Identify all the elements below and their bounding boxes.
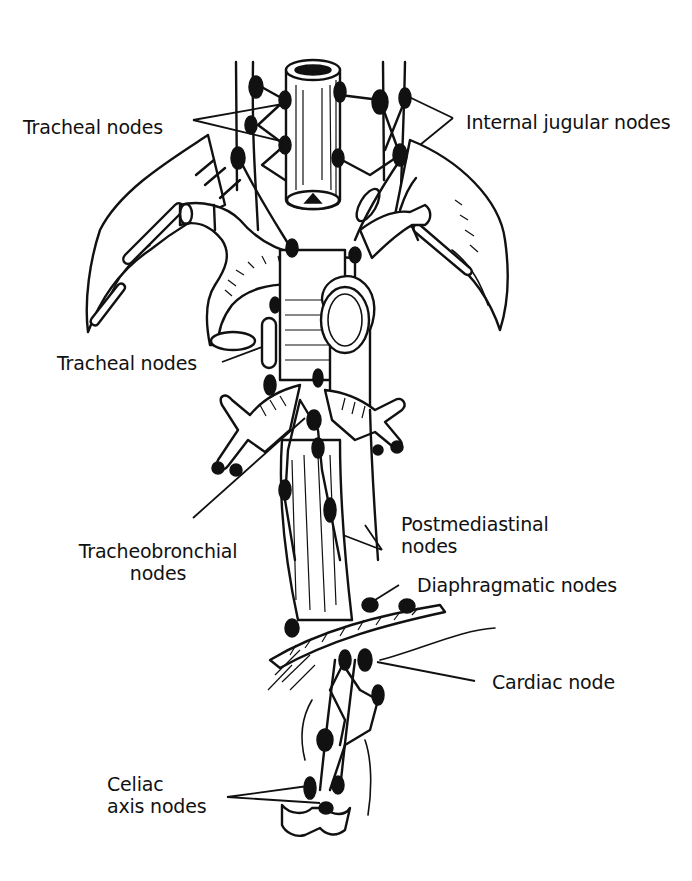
label-tracheobronchial-nodes: Tracheobronchial nodes bbox=[73, 540, 243, 584]
label-diaphragmatic-nodes: Diaphragmatic nodes bbox=[417, 574, 617, 596]
label-cardiac-node: Cardiac node bbox=[492, 671, 615, 693]
label-text: Tracheal nodes bbox=[23, 116, 163, 138]
right-subclavian-wing bbox=[395, 140, 508, 330]
label-text-line-1: Celiac bbox=[107, 773, 206, 795]
trachea bbox=[286, 60, 340, 209]
label-internal-jugular-nodes: Internal jugular nodes bbox=[466, 111, 670, 133]
label-tracheal-nodes-upper: Tracheal nodes bbox=[23, 116, 163, 138]
label-text-line-2: nodes bbox=[401, 535, 549, 557]
left-subclavian-wing bbox=[87, 135, 225, 332]
label-text-line-2: axis nodes bbox=[107, 795, 206, 817]
label-text-line-1: Postmediastinal bbox=[401, 513, 549, 535]
label-text: Tracheal nodes bbox=[57, 352, 197, 374]
label-text: Diaphragmatic nodes bbox=[417, 574, 617, 596]
anatomy-figure: Tracheal nodes Internal jugular nodes Tr… bbox=[0, 0, 692, 881]
label-tracheal-nodes-lower: Tracheal nodes bbox=[57, 352, 197, 374]
label-text-line-2: nodes bbox=[73, 562, 243, 584]
label-text: Cardiac node bbox=[492, 671, 615, 693]
label-text: Internal jugular nodes bbox=[466, 111, 670, 133]
label-postmediastinal-nodes: Postmediastinal nodes bbox=[401, 513, 549, 557]
label-celiac-axis-nodes: Celiac axis nodes bbox=[107, 773, 206, 817]
label-text-line-1: Tracheobronchial bbox=[73, 540, 243, 562]
